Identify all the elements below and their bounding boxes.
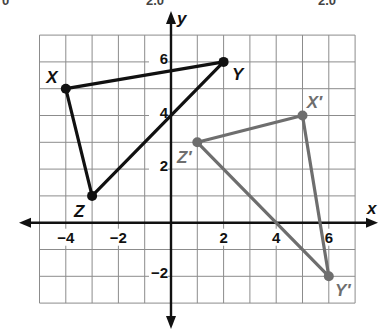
y-tick-label: 6: [160, 50, 168, 67]
x-tick-label: 2: [219, 229, 227, 246]
vertex-label: Z′: [176, 148, 192, 167]
y-tick-label: −2: [151, 264, 168, 281]
vertex-point: [87, 191, 97, 201]
cropped-text-fragment: 2.0: [318, 0, 336, 8]
vertex-label: Y: [232, 65, 245, 84]
x-axis-label: x: [366, 199, 378, 218]
vertex-label: Y′: [335, 281, 351, 300]
y-tick-label: 2: [160, 157, 168, 174]
vertex-point: [61, 84, 71, 94]
vertex-label: X: [45, 68, 59, 87]
x-axis-left-arrow-icon: [19, 218, 31, 228]
vertex-point: [298, 111, 308, 121]
cropped-text-fragment: 2.0: [146, 0, 164, 8]
y-axis-down-arrow-icon: [166, 316, 176, 329]
x-axis-right-arrow-icon: [366, 218, 378, 228]
coordinate-plane-figure: 0 2.0 2.0 xy −4−2246642−2 XYZ X′Y′Z′: [0, 0, 389, 332]
vertex-label: Z: [73, 202, 85, 221]
x-tick-label: 4: [272, 229, 281, 246]
x-tick-label: −2: [110, 229, 127, 246]
vertex-label: X′: [306, 93, 323, 112]
y-axis-label: y: [176, 9, 188, 28]
vertex-point: [219, 57, 229, 67]
y-axis-up-arrow-icon: [166, 11, 176, 24]
cropped-text-fragment: 0: [2, 0, 9, 8]
vertex-point: [324, 271, 334, 281]
x-tick-label: −4: [57, 229, 75, 246]
x-tick-label: 6: [325, 229, 333, 246]
vertex-point: [192, 137, 202, 147]
